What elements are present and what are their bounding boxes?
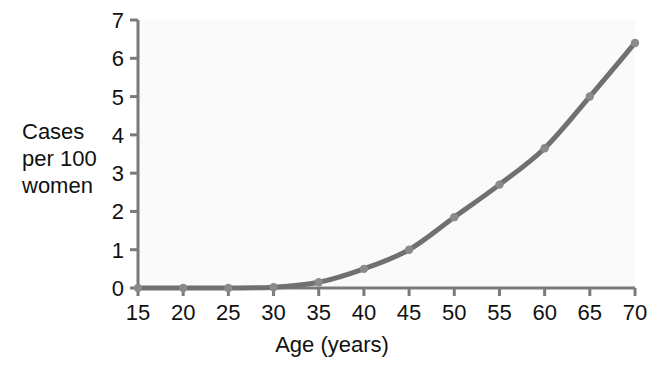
y-tick-label: 2	[112, 199, 124, 224]
chart-figure: Cases per 100 women Age (years) 01234567…	[0, 0, 664, 372]
x-tick-label: 45	[397, 300, 421, 325]
data-point-marker	[405, 246, 413, 254]
x-tick-label: 25	[216, 300, 240, 325]
plot-background	[138, 20, 635, 288]
data-point-marker	[269, 283, 277, 291]
y-tick-label: 7	[112, 8, 124, 33]
data-point-marker	[315, 278, 323, 286]
y-axis: 01234567	[112, 8, 138, 301]
y-tick-label: 0	[112, 276, 124, 301]
y-tick-label: 4	[112, 123, 124, 148]
x-tick-label: 35	[306, 300, 330, 325]
x-tick-label: 70	[623, 300, 647, 325]
data-point-marker	[134, 284, 142, 292]
data-point-marker	[631, 39, 639, 47]
y-tick-label: 6	[112, 46, 124, 71]
x-tick-label: 55	[487, 300, 511, 325]
data-point-marker	[179, 284, 187, 292]
data-point-marker	[540, 144, 548, 152]
x-tick-label: 40	[352, 300, 376, 325]
data-point-marker	[586, 92, 594, 100]
x-tick-label: 65	[578, 300, 602, 325]
x-tick-label: 15	[126, 300, 150, 325]
plot-area: 01234567 152025303540455055606570	[0, 0, 664, 372]
x-tick-label: 50	[442, 300, 466, 325]
x-tick-label: 20	[171, 300, 195, 325]
x-axis: 152025303540455055606570	[126, 288, 647, 325]
data-point-marker	[495, 180, 503, 188]
y-tick-label: 1	[112, 238, 124, 263]
data-point-marker	[360, 265, 368, 273]
x-tick-label: 60	[532, 300, 556, 325]
data-point-marker	[450, 213, 458, 221]
x-tick-label: 30	[261, 300, 285, 325]
y-tick-label: 3	[112, 161, 124, 186]
y-tick-label: 5	[112, 85, 124, 110]
data-point-marker	[224, 284, 232, 292]
